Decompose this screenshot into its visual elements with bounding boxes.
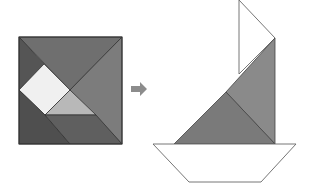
tangram-diagram bbox=[0, 0, 309, 196]
tangram-sailboat bbox=[153, 0, 296, 182]
tangram-square bbox=[19, 37, 122, 144]
hull bbox=[153, 144, 296, 182]
right-arrow-icon bbox=[131, 82, 147, 96]
